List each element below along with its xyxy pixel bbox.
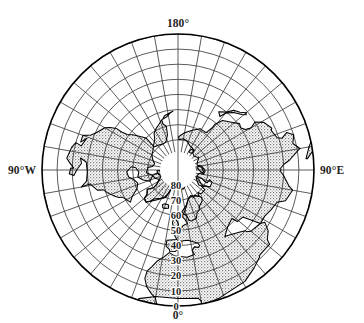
parallel-label-50: 50 (171, 225, 182, 236)
parallel-label-30: 30 (171, 255, 182, 266)
parallel-label-80: 80 (171, 180, 182, 191)
parallel-label-70: 70 (171, 195, 182, 206)
parallel-label-40: 40 (171, 240, 182, 251)
parallel-label-60: 60 (171, 210, 182, 221)
figure-caption (0, 315, 364, 323)
meridian-label-right: 90°E (320, 164, 344, 176)
parallel-label-20: 20 (171, 270, 182, 281)
parallel-label-10: 10 (171, 286, 182, 297)
meridian-label-left: 90°W (8, 164, 36, 176)
meridian-label-top: 180° (167, 17, 190, 29)
polar-map-figure: 8080707060605050404030302020101000180°90… (0, 0, 364, 323)
